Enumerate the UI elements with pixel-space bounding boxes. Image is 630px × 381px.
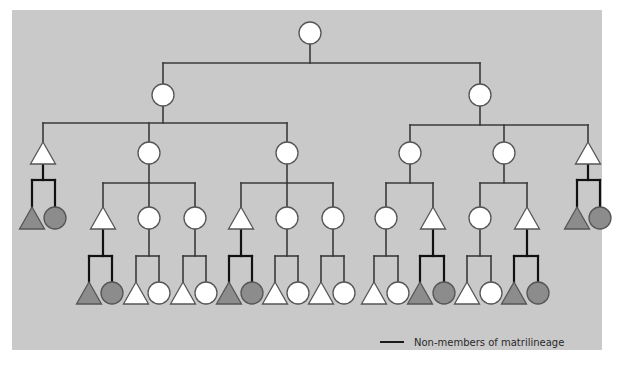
male-nonmember-triangle-icon <box>565 207 590 229</box>
female-nonmember-circle-icon <box>433 282 455 304</box>
male-nonmember-triangle-icon <box>217 282 242 304</box>
male-nonmember-triangle-icon <box>20 207 45 229</box>
female-member-circle-icon <box>469 207 491 229</box>
male-nonmember-triangle-icon <box>502 282 527 304</box>
male-member-triangle-icon <box>309 282 334 304</box>
female-nonmember-circle-icon <box>101 282 123 304</box>
matrilineage-pedigree-diagram <box>0 0 630 381</box>
male-member-triangle-icon <box>91 207 116 229</box>
female-member-circle-icon <box>375 207 397 229</box>
female-member-circle-icon <box>387 282 409 304</box>
male-member-triangle-icon <box>229 207 254 229</box>
female-member-circle-icon <box>469 84 491 106</box>
legend-label: Non-members of matrilineage <box>414 337 564 348</box>
male-member-triangle-icon <box>421 207 446 229</box>
female-nonmember-circle-icon <box>527 282 549 304</box>
female-member-circle-icon <box>480 282 502 304</box>
male-member-triangle-icon <box>171 282 196 304</box>
male-member-triangle-icon <box>576 142 601 164</box>
male-member-triangle-icon <box>362 282 387 304</box>
female-member-circle-icon <box>493 142 515 164</box>
female-member-circle-icon <box>184 207 206 229</box>
male-nonmember-triangle-icon <box>77 282 102 304</box>
female-member-circle-icon <box>276 142 298 164</box>
female-member-circle-icon <box>148 282 170 304</box>
female-nonmember-circle-icon <box>589 207 611 229</box>
male-member-triangle-icon <box>124 282 149 304</box>
female-member-circle-icon <box>299 22 321 44</box>
female-nonmember-circle-icon <box>241 282 263 304</box>
male-member-triangle-icon <box>31 142 56 164</box>
female-nonmember-circle-icon <box>44 207 66 229</box>
female-member-circle-icon <box>195 282 217 304</box>
male-member-triangle-icon <box>515 207 540 229</box>
kinship-nodes <box>20 22 612 304</box>
female-member-circle-icon <box>138 142 160 164</box>
male-member-triangle-icon <box>263 282 288 304</box>
male-nonmember-triangle-icon <box>408 282 433 304</box>
female-member-circle-icon <box>287 282 309 304</box>
female-member-circle-icon <box>138 207 160 229</box>
female-member-circle-icon <box>333 282 355 304</box>
female-member-circle-icon <box>399 142 421 164</box>
female-member-circle-icon <box>322 207 344 229</box>
female-member-circle-icon <box>152 84 174 106</box>
legend: Non-members of matrilineage <box>380 334 564 350</box>
legend-line-swatch <box>380 341 404 343</box>
male-member-triangle-icon <box>455 282 480 304</box>
female-member-circle-icon <box>276 207 298 229</box>
kinship-lines <box>32 44 600 282</box>
